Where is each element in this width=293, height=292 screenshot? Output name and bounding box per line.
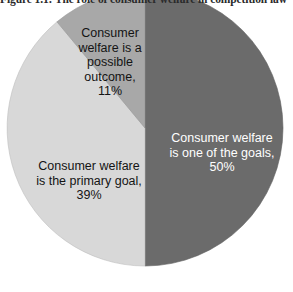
- figure-caption-clipped: Figure 1.1: The role of consumer welfare…: [0, 0, 293, 9]
- pie-slice-one-of-goals[interactable]: [145, 0, 283, 266]
- figure-caption-text: Figure 1.1: The role of consumer welfare…: [0, 0, 287, 5]
- figure-container: Figure 1.1: The role of consumer welfare…: [0, 0, 293, 292]
- pie-chart-svg: [0, 0, 293, 292]
- pie-chart: [0, 0, 293, 292]
